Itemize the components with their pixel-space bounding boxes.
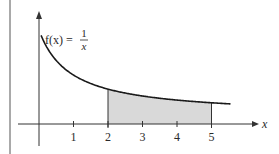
shaded-area <box>108 89 212 124</box>
x-tick-label-3: 3 <box>140 130 146 144</box>
fraction-denominator: x <box>81 40 87 52</box>
function-label-prefix: f(x) = <box>45 33 73 47</box>
x-axis-arrow-icon <box>252 121 259 127</box>
x-tick-label-1: 1 <box>71 130 77 144</box>
figure: x 12345 f(x) = 1 x <box>0 0 279 154</box>
x-tick-label-5: 5 <box>209 130 215 144</box>
x-tick-label-4: 4 <box>174 130 180 144</box>
x-tick-label-2: 2 <box>105 130 111 144</box>
function-label: f(x) = 1 x <box>45 27 88 52</box>
fraction-numerator: 1 <box>81 27 87 39</box>
y-axis-arrow-icon <box>36 11 42 19</box>
x-axis-label: x <box>261 117 268 131</box>
